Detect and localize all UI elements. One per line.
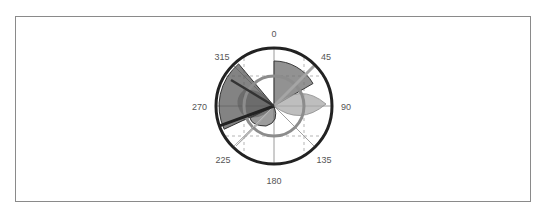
polar-chart: 0 45 90 135 180 225 270 315 [0, 0, 548, 216]
angle-label-180: 180 [266, 176, 281, 186]
angle-label-90: 90 [341, 102, 351, 112]
angle-label-135: 135 [316, 155, 331, 165]
angle-label-315: 315 [214, 52, 229, 62]
angle-label-225: 225 [215, 155, 230, 165]
angle-label-270: 270 [192, 102, 207, 112]
angle-label-45: 45 [321, 52, 331, 62]
angle-label-0: 0 [271, 29, 276, 39]
